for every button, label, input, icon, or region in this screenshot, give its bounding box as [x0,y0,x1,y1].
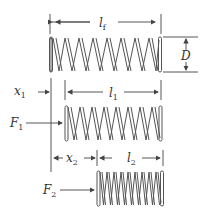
spring-free: lf D [50,14,199,72]
spring-preloaded: F1 [9,106,162,141]
loaded-dimensions: x2 l2 [54,150,163,167]
x2-label: x2 [66,151,78,167]
f1-label: F1 [9,116,23,132]
f2-label: F2 [42,183,56,199]
diameter-label: D [180,49,191,63]
l2-label: l2 [127,151,136,167]
l1-label: l1 [109,86,118,102]
spring-diagram: lf D x1 l1 F1 x2 l2 [0,0,205,215]
lf-label: lf [99,16,107,32]
preload-dimensions: x1 l1 [14,80,161,102]
spring-loaded: F2 [42,171,164,206]
x1-label: x1 [14,84,26,100]
